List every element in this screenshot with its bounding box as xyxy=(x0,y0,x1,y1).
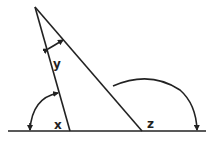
label-y: y xyxy=(53,57,61,71)
angle-y-arc xyxy=(48,40,63,49)
triangle-right-side xyxy=(35,7,142,131)
diagram-svg: y x z xyxy=(0,0,222,144)
label-z: z xyxy=(147,117,154,131)
label-x: x xyxy=(54,118,62,132)
angle-z-arc xyxy=(113,79,197,130)
angle-diagram: y x z xyxy=(0,0,222,144)
